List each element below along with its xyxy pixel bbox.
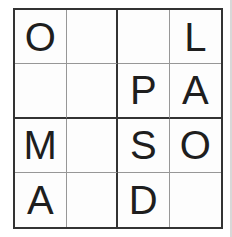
- grid-cell-r4c1[interactable]: A: [15, 173, 67, 227]
- cell-letter: A: [182, 70, 209, 110]
- grid-cell-r2c2[interactable]: [67, 64, 119, 118]
- grid-cell-r2c3[interactable]: P: [118, 64, 170, 118]
- grid-cell-r3c4[interactable]: O: [170, 119, 222, 173]
- cell-letter: A: [27, 180, 54, 220]
- grid-cell-r4c3[interactable]: D: [118, 173, 170, 227]
- grid-cell-r4c2[interactable]: [67, 173, 119, 227]
- grid-cell-r3c2[interactable]: [67, 119, 119, 173]
- cell-letter: P: [130, 70, 157, 110]
- grid-cell-r3c3[interactable]: S: [118, 119, 170, 173]
- puzzle-grid: O L P A M S O A D: [13, 8, 223, 229]
- grid-cell-r4c4[interactable]: [170, 173, 222, 227]
- grid-cell-r1c3[interactable]: [118, 10, 170, 64]
- cell-letter: O: [25, 17, 56, 57]
- page-edge-shading: [230, 0, 232, 237]
- puzzle-page: O L P A M S O A D: [0, 0, 232, 237]
- grid-cell-r1c1[interactable]: O: [15, 10, 67, 64]
- cell-letter: L: [184, 17, 206, 57]
- grid-cell-r1c2[interactable]: [67, 10, 119, 64]
- grid-cell-r2c1[interactable]: [15, 64, 67, 118]
- cell-letter: D: [129, 180, 158, 220]
- cell-letter: S: [130, 125, 157, 165]
- grid-cell-r3c1[interactable]: M: [15, 119, 67, 173]
- cell-letter: O: [180, 125, 211, 165]
- grid-cell-r1c4[interactable]: L: [170, 10, 222, 64]
- grid-cell-r2c4[interactable]: A: [170, 64, 222, 118]
- cell-letter: M: [24, 125, 57, 165]
